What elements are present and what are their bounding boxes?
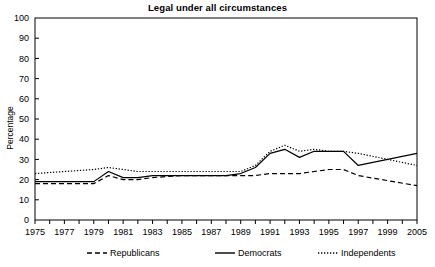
x-tick-label: 1993: [289, 227, 309, 237]
legend-label-independents: Independents: [341, 248, 396, 258]
x-tick-label: 1977: [54, 227, 74, 237]
y-axis-tick-labels: 0102030405060708090100: [14, 13, 29, 225]
y-tick-label: 40: [19, 134, 29, 144]
y-tick-label: 90: [19, 33, 29, 43]
x-tick-label: 1983: [143, 227, 163, 237]
legend-label-democrats: Democrats: [238, 248, 282, 258]
series-line-democrats: [35, 149, 417, 181]
x-axis-tick-marks: [35, 220, 417, 224]
x-tick-label: 1989: [231, 227, 251, 237]
plot-frame: [35, 18, 417, 220]
x-tick-label: 1999: [378, 227, 398, 237]
x-tick-label: 1997: [348, 227, 368, 237]
series-line-republicans: [35, 170, 417, 186]
x-tick-label: 2005: [407, 227, 427, 237]
y-tick-label: 100: [14, 13, 29, 23]
x-tick-label: 1975: [25, 227, 45, 237]
y-tick-label: 50: [19, 114, 29, 124]
series-line-independents: [35, 145, 417, 173]
y-tick-label: 10: [19, 195, 29, 205]
y-tick-label: 0: [24, 215, 29, 225]
x-tick-label: 1987: [201, 227, 221, 237]
y-tick-label: 80: [19, 54, 29, 64]
y-tick-label: 30: [19, 155, 29, 165]
x-tick-label: 1991: [260, 227, 280, 237]
chart-screenshot: Legal under all circumstances 0102030405…: [0, 0, 435, 267]
y-tick-label: 70: [19, 74, 29, 84]
x-tick-label: 1995: [319, 227, 339, 237]
y-axis-label: Percentage: [5, 106, 15, 150]
chart-legend: RepublicansDemocratsIndependents: [87, 248, 396, 258]
x-axis-tick-labels: 1975197719791981198319851987198919911993…: [25, 227, 427, 237]
chart-plot-area: 0102030405060708090100 19751977197919811…: [0, 0, 435, 267]
y-tick-label: 20: [19, 175, 29, 185]
legend-label-republicans: Republicans: [110, 248, 160, 258]
x-tick-label: 1981: [113, 227, 133, 237]
x-tick-label: 1985: [172, 227, 192, 237]
data-series-group: [35, 145, 417, 185]
y-axis-tick-marks: [35, 38, 39, 200]
x-tick-label: 1979: [84, 227, 104, 237]
y-tick-label: 60: [19, 94, 29, 104]
